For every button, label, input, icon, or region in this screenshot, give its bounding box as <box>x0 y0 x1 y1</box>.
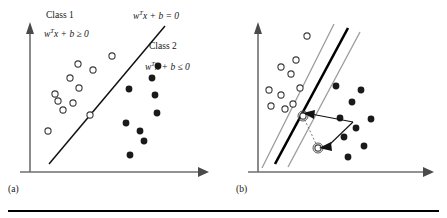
class1-inequality-label: wTx + b ≥ 0 <box>44 27 89 40</box>
y-axis-arrowhead-icon <box>254 22 262 34</box>
caption-b: (b) <box>236 184 247 194</box>
x-axis-arrowhead-icon <box>423 167 434 177</box>
class2-ineq-rest: x + b ≤ 0 <box>155 62 190 72</box>
support-vector-leaders <box>303 110 353 151</box>
boundary-equation-label: wTx + b = 0 <box>133 9 179 22</box>
class2-points <box>123 63 162 159</box>
y-axis-arrowhead-icon <box>26 22 34 34</box>
boundary-eq-rest: x + b = 0 <box>143 11 179 21</box>
class1-points <box>45 53 115 134</box>
panel-a-axes <box>20 22 209 177</box>
class2-label: Class 2 <box>149 41 177 51</box>
panel-a-plot <box>0 0 224 205</box>
svm-figure: Class 1 wTx + b ≥ 0 wTx + b = 0 Class 2 … <box>0 0 447 218</box>
class1-ineq-rest: x + b ≥ 0 <box>54 29 89 39</box>
class2-inequality-label: wTx + b ≤ 0 <box>145 60 190 73</box>
panel-a: Class 1 wTx + b ≥ 0 wTx + b = 0 Class 2 … <box>0 0 224 205</box>
class2-points <box>333 83 375 161</box>
decision-boundary-line <box>49 26 165 164</box>
class1-points <box>266 33 310 112</box>
panel-b-axes <box>248 22 434 177</box>
panel-b-plot <box>223 0 447 205</box>
class1-label: Class 1 <box>46 10 74 20</box>
decision-boundary-line <box>275 28 348 164</box>
bottom-divider-rule <box>8 210 439 212</box>
panel-b: Support vectors <box>223 0 447 205</box>
caption-a: (a) <box>8 184 19 194</box>
x-axis-arrowhead-icon <box>198 167 209 177</box>
